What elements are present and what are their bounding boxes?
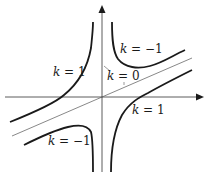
label-k-1-left: k = 1 bbox=[53, 66, 86, 78]
label-val: 1 bbox=[157, 103, 165, 117]
y-axis-arrow-icon bbox=[99, 5, 106, 13]
diagram-graphic bbox=[0, 0, 209, 179]
x-axis-arrow-icon bbox=[196, 94, 204, 101]
label-val: 0 bbox=[132, 69, 140, 83]
label-eq: = bbox=[114, 69, 132, 83]
level-curve-diagram: k = −1 k = 1 k = 0 k = 1 k = −1 bbox=[0, 0, 209, 179]
label-eq: = bbox=[139, 103, 157, 117]
label-k-1-right: k = 1 bbox=[132, 104, 165, 116]
label-k-neg1-upper: k = −1 bbox=[120, 43, 163, 55]
label-eq: = bbox=[55, 134, 73, 148]
label-k-neg1-lower: k = −1 bbox=[48, 135, 91, 147]
label-k-0: k = 0 bbox=[107, 70, 140, 82]
label-eq: = bbox=[60, 65, 78, 79]
label-val: −1 bbox=[145, 42, 163, 56]
label-val: 1 bbox=[78, 65, 86, 79]
curve-k1-lower-right bbox=[111, 70, 192, 172]
curve-k-neg1-lower-left bbox=[24, 126, 93, 172]
label-eq: = bbox=[127, 42, 145, 56]
label-val: −1 bbox=[73, 134, 91, 148]
